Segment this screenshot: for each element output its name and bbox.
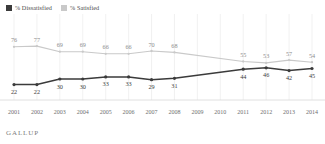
x-tick-2009: 2009 [191, 109, 203, 115]
x-tick-2004: 2004 [77, 109, 89, 115]
data-label: 69 [57, 42, 63, 48]
data-label: 54 [309, 53, 315, 59]
legend-label-dissatisfied: % Dissatisfied [15, 5, 52, 11]
x-axis-tick-labels: 2001200220032004200520062007200820092010… [0, 109, 325, 123]
x-tick-2014: 2014 [306, 109, 318, 115]
data-label: 69 [80, 42, 86, 48]
x-tick-2001: 2001 [8, 109, 20, 115]
data-label: 30 [80, 84, 86, 90]
data-label: 44 [240, 74, 246, 80]
data-label: 66 [103, 44, 109, 50]
x-tick-2012: 2012 [260, 109, 272, 115]
data-label: 22 [11, 89, 17, 95]
x-tick-2008: 2008 [168, 109, 180, 115]
x-tick-2002: 2002 [31, 109, 43, 115]
x-tick-2011: 2011 [237, 109, 249, 115]
x-tick-2010: 2010 [214, 109, 226, 115]
data-label: 77 [34, 37, 40, 43]
data-label: 68 [171, 43, 177, 49]
x-tick-2006: 2006 [123, 109, 135, 115]
data-label: 30 [57, 84, 63, 90]
square-swatch-icon [61, 5, 67, 11]
chart-legend: % Dissatisfied % Satisfied [6, 3, 99, 14]
plot-svg [0, 14, 325, 108]
x-tick-2007: 2007 [146, 109, 158, 115]
gallup-line-chart: % Dissatisfied % Satisfied 7677696966667… [0, 0, 325, 144]
data-label: 53 [263, 53, 269, 59]
data-label: 29 [148, 84, 154, 90]
data-label: 31 [171, 83, 177, 89]
gallup-brand-footer: GALLUP [6, 129, 39, 137]
legend-item-satisfied: % Satisfied [61, 5, 99, 11]
x-tick-2003: 2003 [54, 109, 66, 115]
data-label: 70 [148, 42, 154, 48]
data-label: 33 [126, 81, 132, 87]
data-label: 55 [240, 52, 246, 58]
data-label: 33 [103, 81, 109, 87]
data-label: 42 [286, 75, 292, 81]
data-label: 22 [34, 89, 40, 95]
data-label: 46 [263, 72, 269, 78]
x-tick-2013: 2013 [283, 109, 295, 115]
data-label: 76 [11, 37, 17, 43]
x-tick-2005: 2005 [100, 109, 112, 115]
plot-area: 7677696966667068555357542222303033332931… [0, 14, 325, 108]
square-swatch-icon [6, 5, 12, 11]
legend-item-dissatisfied: % Dissatisfied [6, 5, 52, 11]
data-label: 45 [309, 73, 315, 79]
data-label: 66 [126, 44, 132, 50]
legend-label-satisfied: % Satisfied [70, 5, 99, 11]
data-label: 57 [286, 51, 292, 57]
